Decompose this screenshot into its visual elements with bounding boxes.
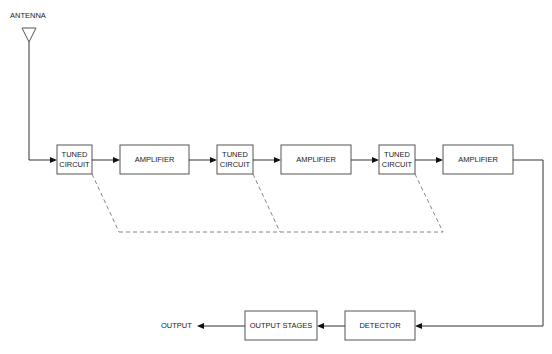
output-label: OUTPUT	[161, 321, 192, 330]
wire-amp3-to-detector	[421, 160, 543, 326]
block-label: TUNED	[222, 150, 248, 159]
block-label: TUNED	[62, 150, 88, 159]
block-label: TUNED	[384, 150, 410, 159]
arrow-tuned3-input	[372, 157, 379, 163]
tuned-rf-receiver-block-diagram: ANTENNA TUNED CIRCUIT AMPLIFIER TUNED CI…	[0, 0, 552, 354]
block-amplifier-2: AMPLIFIER	[281, 145, 351, 174]
wire-antenna-to-tuned1	[29, 42, 51, 160]
arrow-amp2-input	[274, 157, 281, 163]
block-amplifier-3: AMPLIFIER	[443, 145, 513, 174]
block-label: CIRCUIT	[382, 160, 413, 169]
block-tuned-circuit-3: TUNED CIRCUIT	[379, 145, 415, 174]
block-detector: DETECTOR	[345, 311, 415, 340]
block-label: DETECTOR	[359, 321, 401, 330]
arrow-output	[197, 323, 204, 329]
block-label: AMPLIFIER	[458, 155, 498, 164]
arrow-tuned1-input	[50, 157, 57, 163]
block-tuned-circuit-2: TUNED CIRCUIT	[217, 145, 253, 174]
block-amplifier-1: AMPLIFIER	[120, 145, 189, 174]
arrow-detector-input	[415, 323, 422, 329]
block-label: CIRCUIT	[59, 160, 90, 169]
block-label: AMPLIFIER	[296, 155, 336, 164]
block-tuned-circuit-1: TUNED CIRCUIT	[57, 145, 92, 174]
arrow-amp3-input	[436, 157, 443, 163]
arrow-amp1-input	[113, 157, 120, 163]
antenna-icon	[22, 28, 36, 42]
block-label: CIRCUIT	[220, 160, 251, 169]
arrow-tuned2-input	[210, 157, 217, 163]
antenna-label: ANTENNA	[10, 11, 46, 20]
block-output-stages: OUTPUT STAGES	[245, 311, 317, 340]
block-label: AMPLIFIER	[135, 155, 175, 164]
ganged-tuning-link	[92, 174, 443, 232]
arrow-output-stages-input	[317, 323, 324, 329]
block-label: OUTPUT STAGES	[250, 321, 313, 330]
